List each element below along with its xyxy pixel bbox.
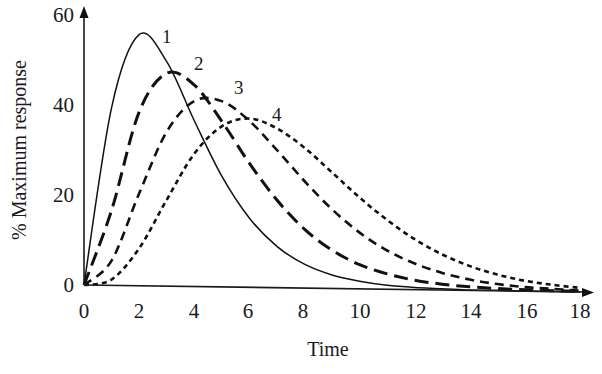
x-tick-label: 2 — [134, 299, 145, 323]
curve-label-4: 4 — [272, 104, 282, 125]
x-tick-label: 8 — [298, 299, 309, 323]
x-tick-label: 6 — [243, 299, 254, 323]
y-axis-title: % Maximum response — [8, 60, 31, 240]
x-tick-labels: 0 2 4 6 8 10 12 14 16 18 — [79, 299, 591, 323]
plot-area — [80, 6, 595, 297]
curve-label-3: 3 — [234, 77, 244, 98]
y-axis-arrow-icon — [80, 6, 89, 18]
x-tick-label: 18 — [570, 299, 591, 323]
line-chart: 60 40 20 0 0 2 4 6 8 10 12 14 16 18 Time… — [0, 0, 602, 374]
x-tick-label: 0 — [79, 299, 90, 323]
x-tick-label: 10 — [350, 299, 371, 323]
y-tick-label: 0 — [64, 273, 75, 297]
y-tick-labels: 60 40 20 0 — [53, 3, 74, 297]
x-tick-label: 4 — [189, 299, 200, 323]
curve-3 — [84, 98, 580, 291]
y-tick-label: 60 — [53, 3, 74, 27]
curve-label-1: 1 — [162, 26, 172, 47]
x-axis-title: Time — [307, 338, 349, 360]
y-tick-label: 20 — [53, 183, 74, 207]
curve-group — [84, 33, 580, 292]
y-tick-label: 40 — [53, 93, 74, 117]
x-axis-arrow-icon — [582, 288, 594, 297]
x-tick-label: 12 — [406, 299, 427, 323]
curve-2 — [84, 72, 580, 291]
curve-label-2: 2 — [194, 53, 204, 74]
x-tick-label: 14 — [461, 299, 483, 323]
curve-1 — [84, 33, 580, 292]
curve-4 — [84, 119, 580, 288]
x-tick-label: 16 — [517, 299, 538, 323]
